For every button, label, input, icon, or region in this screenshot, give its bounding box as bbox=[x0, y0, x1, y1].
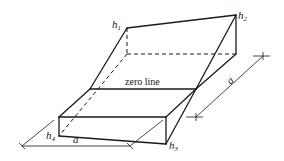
hidden-edge-back-to-h4 bbox=[59, 54, 127, 136]
dimension-line-right bbox=[196, 56, 263, 117]
diagram-canvas: h1 h2 h3 h4 zero line a a bbox=[0, 0, 284, 161]
label-dimension-bottom: a bbox=[73, 133, 79, 145]
edge-h1-h2 bbox=[127, 15, 236, 28]
edge-zero-right-to-h3 bbox=[166, 89, 196, 144]
label-zero-line: zero line bbox=[125, 76, 160, 87]
prism-diagram: h1 h2 h3 h4 zero line a a bbox=[0, 0, 284, 161]
edge-h1-zero bbox=[90, 28, 127, 89]
label-dimension-right: a bbox=[224, 74, 236, 87]
label-h2: h2 bbox=[238, 9, 248, 23]
edge-zero-right-to-box bbox=[166, 89, 196, 117]
label-h3: h3 bbox=[169, 139, 179, 153]
label-h4: h4 bbox=[46, 129, 56, 143]
label-h1: h1 bbox=[112, 18, 121, 32]
edge-zero-left-to-box bbox=[59, 89, 90, 117]
